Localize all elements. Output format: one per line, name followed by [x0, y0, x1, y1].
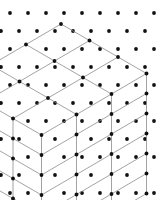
background-dot — [71, 101, 75, 105]
lattice-node — [110, 112, 114, 116]
lattice-node — [145, 72, 149, 76]
lattice-edge — [42, 155, 77, 176]
lattice-node — [75, 153, 79, 157]
background-dot — [44, 83, 48, 87]
background-dot — [53, 173, 57, 177]
lattice-edge — [42, 195, 77, 201]
lattice-node — [81, 76, 85, 80]
background-dot — [62, 155, 66, 159]
lattice-edge — [26, 45, 55, 62]
background-dot — [107, 29, 111, 33]
lattice-node — [110, 172, 114, 176]
lattice-edge — [55, 61, 84, 78]
background-dot — [0, 101, 3, 105]
background-dot — [125, 29, 129, 33]
background-dot — [0, 173, 3, 177]
lattice-node — [145, 192, 149, 196]
background-dot — [26, 11, 30, 15]
lattice-node — [75, 193, 79, 197]
background-dot — [134, 191, 138, 195]
lattice-edge — [112, 134, 147, 155]
lattice-node — [145, 112, 149, 116]
lattice-edge — [90, 41, 119, 58]
background-dot — [98, 11, 102, 15]
background-dot — [143, 65, 147, 69]
background-dot — [0, 137, 3, 141]
lattice-edge — [77, 114, 112, 135]
lattice-edge — [112, 174, 147, 195]
background-dot — [44, 119, 48, 123]
lattice-node — [53, 59, 57, 63]
background-dot — [125, 65, 129, 69]
lattice-node — [40, 133, 44, 137]
background-dot — [80, 83, 84, 87]
background-dot — [116, 155, 120, 159]
background-dot — [26, 191, 30, 195]
background-dot — [107, 101, 111, 105]
lattice-node — [11, 117, 15, 121]
lattice-node — [40, 153, 44, 157]
background-dot — [17, 101, 21, 105]
background-dot — [152, 155, 156, 159]
background-dot — [116, 83, 120, 87]
lattice-edge — [77, 94, 112, 115]
lattice-edge — [0, 45, 26, 66]
background-dot — [44, 11, 48, 15]
background-dot — [89, 173, 93, 177]
lattice-edge — [61, 24, 90, 41]
lattice-edge — [83, 78, 112, 95]
background-dot — [35, 29, 39, 33]
background-dot — [89, 29, 93, 33]
lattice-edge — [48, 78, 83, 99]
background-dot — [53, 29, 57, 33]
lattice-edge — [42, 135, 77, 156]
lattice-edge — [83, 57, 118, 78]
lattice-node — [145, 172, 149, 176]
lattice-node — [11, 157, 15, 161]
background-dot — [98, 191, 102, 195]
background-dot — [134, 47, 138, 51]
lattice-edge — [0, 182, 13, 199]
background-dot — [17, 29, 21, 33]
background-dot — [35, 65, 39, 69]
background-dot — [134, 83, 138, 87]
lattice-edge — [55, 41, 90, 62]
lattice-node — [145, 152, 149, 156]
lattice-node — [59, 22, 63, 26]
lattice-edge — [13, 139, 42, 156]
background-dot — [62, 191, 66, 195]
lattice-node — [11, 177, 15, 181]
background-dot — [143, 29, 147, 33]
lattice-node — [110, 152, 114, 156]
background-dot — [53, 137, 57, 141]
lattice-node — [110, 92, 114, 96]
background-dot — [152, 119, 156, 123]
lattice-edge — [118, 57, 147, 74]
background-dot — [89, 65, 93, 69]
lattice-edge — [20, 61, 55, 82]
lattice-node — [46, 96, 50, 100]
background-dot — [134, 155, 138, 159]
lattice-edge — [0, 122, 13, 139]
lattice-node — [75, 173, 79, 177]
background-dot — [17, 173, 21, 177]
lattice-node — [40, 193, 44, 197]
lattice-node — [24, 43, 28, 47]
background-dot — [17, 137, 21, 141]
background-dot — [134, 11, 138, 15]
lattice-edge — [13, 159, 42, 176]
background-dot — [116, 11, 120, 15]
background-dot — [8, 11, 12, 15]
lattice-node — [116, 55, 120, 59]
background-dot — [8, 47, 12, 51]
background-dot — [17, 65, 21, 69]
lattice-edge — [42, 175, 77, 196]
lattice-node — [11, 197, 15, 200]
lattice-edge — [26, 24, 61, 45]
background-dot — [26, 119, 30, 123]
background-dot — [116, 47, 120, 51]
background-dot — [44, 47, 48, 51]
background-dot — [62, 83, 66, 87]
lattice-node — [110, 192, 114, 196]
lattice-node — [75, 113, 79, 117]
